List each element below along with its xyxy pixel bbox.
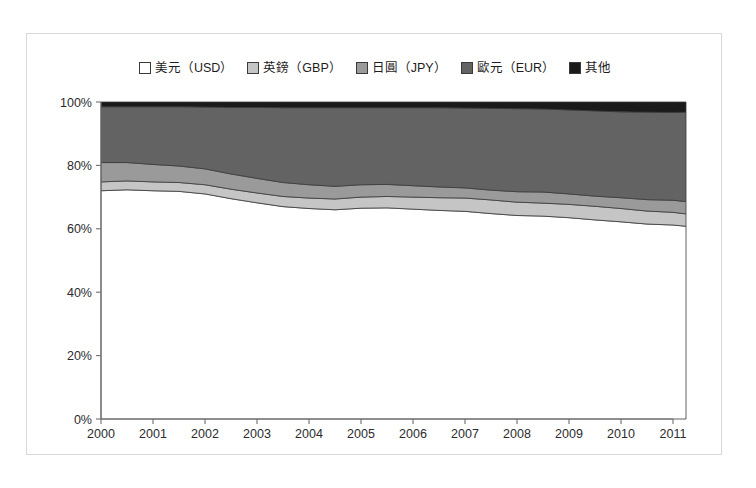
x-tick-label-2005: 2005 xyxy=(347,427,375,441)
y-tick-label-0: 0% xyxy=(74,413,92,427)
x-tick-label-2007: 2007 xyxy=(451,427,479,441)
plot-area: 0%20%40%60%80%100%2000200120022003200420… xyxy=(27,34,723,456)
x-tick-label-2011: 2011 xyxy=(660,427,687,441)
area-band-0 xyxy=(101,190,686,419)
y-tick-label-100: 100% xyxy=(60,96,92,110)
y-tick-label-20: 20% xyxy=(67,349,92,363)
stacked-area-chart: 0%20%40%60%80%100%2000200120022003200420… xyxy=(27,34,723,456)
x-tick-label-2001: 2001 xyxy=(139,427,167,441)
y-tick-label-60: 60% xyxy=(67,222,92,236)
x-tick-label-2008: 2008 xyxy=(503,427,531,441)
x-tick-label-2004: 2004 xyxy=(295,427,323,441)
x-tick-label-2009: 2009 xyxy=(555,427,583,441)
x-tick-label-2010: 2010 xyxy=(607,427,635,441)
x-tick-label-2002: 2002 xyxy=(191,427,219,441)
x-tick-label-2000: 2000 xyxy=(87,427,115,441)
x-tick-label-2006: 2006 xyxy=(399,427,427,441)
figure-frame: 美元（USD） 英鎊（GBP） 日圓（JPY） 歐元（EUR） 其他 0%20%… xyxy=(26,33,722,455)
x-tick-label-2003: 2003 xyxy=(243,427,271,441)
y-tick-label-80: 80% xyxy=(67,159,92,173)
y-tick-label-40: 40% xyxy=(67,286,92,300)
